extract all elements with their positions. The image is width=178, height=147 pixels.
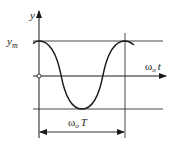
origin-marker: [37, 74, 41, 78]
waveform-diagram: y ym ωot ωoT: [0, 0, 178, 147]
cosine-curve: [33, 41, 134, 109]
amplitude-label: ym: [6, 35, 18, 50]
x-axis-label: ωot: [145, 60, 162, 74]
period-label: ωoT: [68, 116, 88, 130]
y-axis-label: y: [29, 9, 35, 21]
